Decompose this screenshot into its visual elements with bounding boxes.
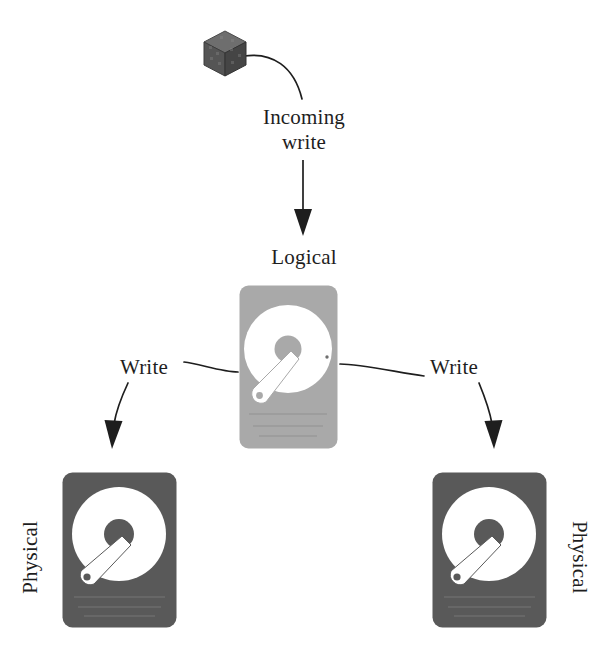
edge-write-right-connector [340, 364, 424, 376]
edge-write-left-arrow [114, 383, 128, 424]
hard-disk-physical-left [62, 472, 177, 628]
label-write-right: Write [430, 355, 478, 380]
arrowhead-incoming [294, 209, 312, 236]
label-physical-left: Physical [18, 497, 43, 617]
arrowhead-write-right [485, 420, 503, 449]
arrowhead-write-left [105, 420, 123, 449]
label-logical: Logical [0, 245, 608, 270]
edge-incoming-curve [244, 55, 302, 99]
label-incoming-write: Incoming write [0, 105, 608, 155]
label-physical-right: Physical [568, 497, 593, 617]
hard-disk-logical [239, 285, 338, 449]
hard-disk-physical-right [432, 472, 547, 628]
label-incoming-write-line1: Incoming [0, 105, 608, 130]
label-incoming-write-line2: write [0, 130, 608, 155]
edge-write-right-arrow [479, 383, 492, 424]
cube-icon [200, 28, 250, 80]
edge-write-left-connector [184, 362, 238, 372]
label-write-left: Write [120, 355, 168, 380]
